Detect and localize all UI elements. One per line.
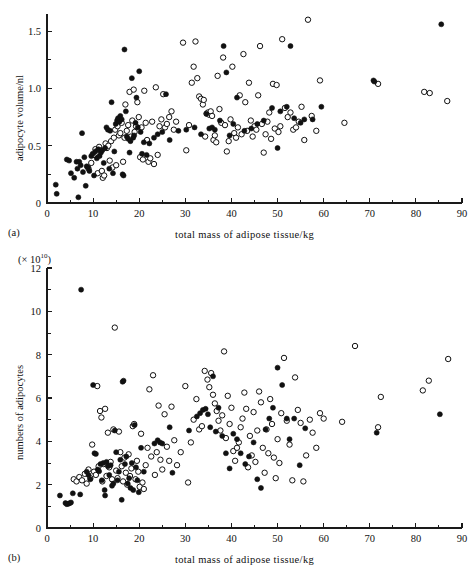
y-tick-label: 6 bbox=[36, 393, 41, 404]
data-point bbox=[163, 92, 168, 97]
data-point bbox=[288, 44, 293, 49]
data-point bbox=[284, 416, 289, 421]
data-point bbox=[204, 111, 209, 116]
data-point bbox=[295, 407, 300, 412]
data-point bbox=[123, 109, 128, 114]
data-point bbox=[244, 406, 249, 411]
data-point bbox=[108, 128, 113, 133]
data-point bbox=[205, 412, 210, 417]
data-point bbox=[139, 151, 144, 156]
data-point bbox=[273, 475, 278, 480]
multiplier-prefix: (× 10 bbox=[18, 254, 41, 265]
data-point bbox=[199, 423, 204, 428]
data-point bbox=[253, 459, 258, 464]
x-tick-label: 40 bbox=[226, 533, 237, 544]
data-point bbox=[172, 438, 177, 443]
data-point bbox=[238, 451, 243, 456]
data-point bbox=[266, 451, 271, 456]
data-point bbox=[173, 119, 178, 124]
data-point bbox=[121, 173, 126, 178]
data-point bbox=[234, 437, 239, 442]
data-point bbox=[87, 168, 92, 173]
data-point bbox=[194, 396, 199, 401]
data-point bbox=[220, 433, 225, 438]
multiplier-suffix: ) bbox=[48, 254, 52, 265]
y-tick-label: 0 bbox=[36, 523, 41, 534]
data-point bbox=[251, 409, 256, 414]
data-point bbox=[232, 458, 237, 463]
data-point bbox=[68, 171, 73, 176]
data-point bbox=[143, 120, 148, 125]
data-point bbox=[247, 433, 252, 438]
data-point bbox=[99, 478, 104, 483]
data-point bbox=[122, 462, 127, 467]
data-point bbox=[278, 124, 283, 129]
data-point bbox=[258, 400, 263, 405]
data-point bbox=[133, 120, 138, 125]
data-point bbox=[321, 416, 326, 421]
data-point bbox=[305, 17, 310, 22]
data-point bbox=[92, 173, 97, 178]
data-point bbox=[187, 428, 192, 433]
data-point bbox=[267, 110, 272, 115]
data-point bbox=[292, 375, 297, 380]
data-point bbox=[155, 132, 160, 137]
data-point bbox=[124, 128, 129, 133]
data-point bbox=[293, 125, 298, 130]
data-point bbox=[156, 403, 161, 408]
data-point bbox=[160, 467, 165, 472]
data-point bbox=[420, 388, 425, 393]
data-point bbox=[223, 451, 228, 456]
data-point bbox=[243, 462, 248, 467]
data-point bbox=[80, 131, 85, 136]
data-point bbox=[78, 163, 83, 168]
data-point bbox=[135, 100, 140, 105]
data-point bbox=[261, 118, 266, 123]
data-point bbox=[103, 493, 108, 498]
y-tick-label: 1.0 bbox=[28, 83, 41, 94]
data-point bbox=[118, 130, 123, 135]
data-point bbox=[246, 454, 251, 459]
data-point bbox=[103, 146, 108, 151]
data-point bbox=[138, 129, 143, 134]
axis-lines bbox=[47, 268, 462, 528]
data-point bbox=[151, 161, 156, 166]
data-point bbox=[124, 454, 129, 459]
y-tick-label: 0 bbox=[36, 198, 41, 209]
data-point bbox=[298, 420, 303, 425]
data-point bbox=[230, 64, 235, 69]
data-point bbox=[186, 122, 191, 127]
multiplier-exponent: 10 bbox=[41, 252, 48, 260]
data-point bbox=[231, 431, 236, 436]
data-point bbox=[70, 491, 75, 496]
data-point bbox=[267, 416, 272, 421]
data-point bbox=[227, 133, 232, 138]
data-point bbox=[269, 421, 274, 426]
data-point bbox=[302, 137, 307, 142]
y-tick-label: 10 bbox=[31, 306, 42, 317]
data-point bbox=[137, 69, 142, 74]
data-point bbox=[220, 413, 225, 418]
data-point bbox=[339, 419, 344, 424]
data-point bbox=[159, 117, 164, 122]
data-point bbox=[193, 39, 198, 44]
data-point bbox=[242, 390, 247, 395]
data-point bbox=[208, 425, 213, 430]
data-point bbox=[167, 138, 172, 143]
data-point bbox=[251, 440, 256, 445]
data-point bbox=[88, 477, 93, 482]
data-point bbox=[160, 441, 165, 446]
data-point bbox=[201, 97, 206, 102]
data-point bbox=[127, 150, 132, 155]
data-point bbox=[301, 479, 306, 484]
data-point bbox=[258, 485, 263, 490]
data-point bbox=[297, 463, 302, 468]
data-point bbox=[131, 488, 136, 493]
data-point bbox=[91, 383, 96, 388]
data-point bbox=[101, 173, 106, 178]
data-point bbox=[270, 105, 275, 110]
data-point bbox=[218, 428, 223, 433]
data-point bbox=[102, 406, 107, 411]
data-point bbox=[107, 472, 112, 477]
data-point bbox=[132, 133, 137, 138]
